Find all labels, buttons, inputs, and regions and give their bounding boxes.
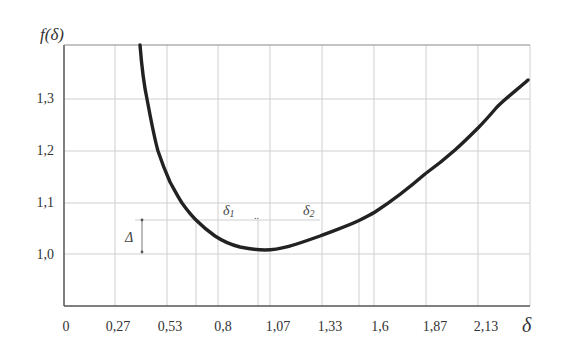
marker-dots: .. xyxy=(254,210,259,221)
x-tick-label: 2,13 xyxy=(474,319,499,334)
y-tick-label: 1,0 xyxy=(37,247,55,262)
y-axis-title: f(δ) xyxy=(40,25,64,44)
delta-cap-label: Δ xyxy=(124,230,133,245)
delta-bracket xyxy=(141,219,144,254)
y-tick-labels: 1,3 1,2 1,1 1,0 xyxy=(37,91,55,262)
horizontal-gridlines xyxy=(64,99,530,254)
delta2-label: δ2 xyxy=(303,203,315,219)
x-tick-label: 1,33 xyxy=(318,319,343,334)
x-tick-label: 1,07 xyxy=(266,319,291,334)
x-axis-title: δ xyxy=(522,314,532,336)
x-tick-label: 1,87 xyxy=(423,319,448,334)
delta1-label: δ1 xyxy=(223,203,235,219)
chart: 1,3 1,2 1,1 1,0 0 0,27 0,53 0,8 1,07 1,3… xyxy=(0,0,562,342)
x-tick-label: 0,53 xyxy=(158,319,183,334)
marker-gridlines xyxy=(196,220,359,306)
x-tick-label: 1,6 xyxy=(371,319,389,334)
y-tick-label: 1,3 xyxy=(37,91,55,106)
x-tick-label: 0,8 xyxy=(214,319,232,334)
vertical-gridlines xyxy=(115,45,530,306)
x-tick-label: 0,27 xyxy=(106,319,131,334)
y-tick-label: 1,1 xyxy=(37,195,55,210)
x-tick-label: 0 xyxy=(63,319,70,334)
axes xyxy=(64,45,530,306)
f-delta-curve xyxy=(140,45,528,250)
x-tick-labels: 0 0,27 0,53 0,8 1,07 1,33 1,6 1,87 2,13 xyxy=(63,319,499,334)
y-tick-label: 1,2 xyxy=(37,143,55,158)
